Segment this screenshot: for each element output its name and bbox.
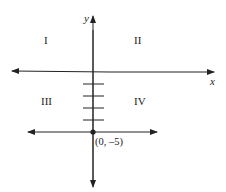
y-axis-label: y [84,13,89,24]
x-axis-label: x [210,76,215,87]
point-0-neg5 [90,129,95,134]
axes-drawing [0,0,226,192]
quadrant-label-I: I [44,35,48,46]
quadrant-label-II: II [134,35,141,46]
quadrant-label-IV: IV [134,96,146,107]
point-label: (0, –5) [95,137,123,148]
coordinate-diagram: y x I II III IV (0, –5) [0,0,226,192]
quadrant-label-III: III [41,96,52,107]
